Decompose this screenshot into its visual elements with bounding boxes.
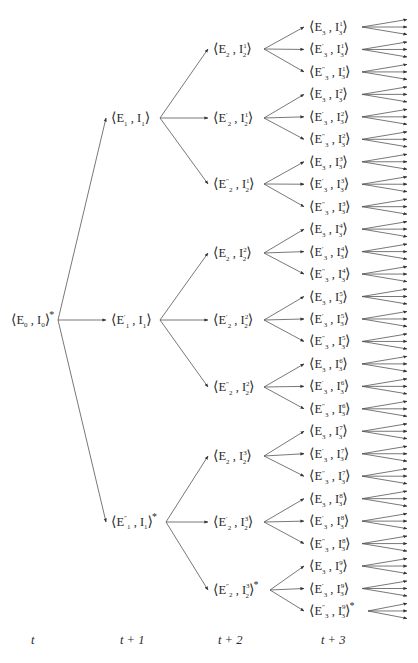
node-level3: ⟨E′3 , I53⟩: [308, 312, 350, 326]
edge-l3-to-leaf: [362, 311, 407, 319]
edge-l3-to-leaf: [362, 379, 407, 387]
node-level3: ⟨E″3 , I93⟩*: [308, 603, 356, 618]
edge-l3-to-leaf: [362, 252, 407, 260]
edge-l3-to-leaf: [362, 109, 407, 117]
edge-l1-to-l2: [160, 320, 208, 387]
edge-l3-to-leaf: [362, 514, 407, 522]
node-level3: ⟨E′3 , I23⟩: [308, 110, 350, 124]
node-level3: ⟨E″3 , I13⟩: [308, 65, 352, 79]
edge-l3-to-leaf: [362, 184, 407, 192]
edge-l2-to-l3: [264, 117, 304, 118]
edge-l3-to-leaf: [362, 42, 407, 50]
edge-l1-to-l2: [160, 253, 208, 320]
node-level3: ⟨E′3 , I63⟩: [308, 379, 350, 393]
node-level3: ⟨E3 , I43⟩: [308, 222, 349, 236]
edge-l2-to-l3: [264, 229, 304, 253]
edge-l3-to-leaf: [362, 199, 407, 207]
edge-l3-to-leaf: [362, 132, 407, 140]
node-level1: ⟨E1 , I1⟩: [110, 111, 151, 125]
edge-l3-to-leaf: [362, 117, 407, 125]
time-label-t-plus-2: t + 2: [218, 633, 242, 648]
edge-l3-to-leaf: [362, 72, 407, 80]
node-level3: ⟨E″3 , I33⟩: [308, 200, 352, 214]
edge-l3-to-leaf: [362, 356, 407, 364]
edge-l2-to-l3: [264, 499, 304, 522]
edge-l3-to-leaf: [362, 454, 407, 462]
node-level2: ⟨E′2 , I22⟩: [212, 313, 254, 327]
node-level3: ⟨E″3 , I73⟩: [308, 469, 352, 483]
edge-l3-to-leaf: [362, 469, 407, 477]
edge-l3-to-leaf: [362, 566, 407, 574]
node-level2: ⟨E2 , I22⟩: [212, 246, 253, 260]
node-level3: ⟨E″3 , I83⟩: [308, 537, 352, 551]
node-level2: ⟨E″2 , I32⟩*: [212, 583, 260, 598]
edge-l3-to-leaf: [362, 229, 407, 237]
node-level3: ⟨E3 , I13⟩: [308, 20, 349, 34]
edge-l2-to-l3: [264, 297, 304, 320]
node-level2: ⟨E2 , I12⟩: [212, 42, 253, 56]
node-level3: ⟨E′3 , I33⟩: [308, 177, 350, 191]
edge-l2-to-l3: [264, 118, 304, 139]
node-level2: ⟨E′2 , I12⟩: [212, 111, 254, 125]
edge-l3-to-leaf: [362, 589, 407, 597]
node-level3: ⟨E′3 , I73⟩: [308, 447, 350, 461]
node-level3: ⟨E′3 , I83⟩: [308, 514, 350, 528]
time-label-t-plus-1: t + 1: [120, 633, 144, 648]
edge-l2-to-l3: [264, 320, 304, 341]
edge-l2-to-l3: [264, 319, 304, 320]
node-level2: ⟨E2 , I32⟩: [212, 449, 253, 463]
edge-l2-to-l3: [264, 431, 304, 456]
edge-l2-to-l3: [264, 94, 304, 118]
node-level3: ⟨E″3 , I43⟩: [308, 267, 352, 281]
node-level1: ⟨E″1 , I1⟩*: [110, 515, 158, 530]
edge-l3-to-leaf: [362, 409, 407, 417]
edge-l2-to-l3: [264, 27, 304, 49]
edge-l3-to-leaf: [362, 364, 407, 372]
edge-l2-to-l3: [270, 589, 304, 591]
edge-l2-to-l3: [264, 386, 304, 387]
node-level3: ⟨E3 , I83⟩: [308, 492, 349, 506]
edge-l2-to-l3: [264, 522, 304, 544]
edge-l3-to-leaf: [368, 603, 407, 611]
edge-l2-to-l3: [264, 162, 304, 184]
node-level3: ⟨E3 , I63⟩: [308, 357, 349, 371]
edge-l1-to-l2: [160, 118, 208, 184]
time-label-t: t: [31, 633, 34, 648]
edge-l3-to-leaf: [362, 581, 407, 589]
node-level3: ⟨E3 , I93⟩: [308, 559, 349, 573]
node-level3: ⟨E′3 , I43⟩: [308, 245, 350, 259]
time-label-t-plus-3: t + 3: [321, 633, 345, 648]
node-level3: ⟨E3 , I73⟩: [308, 424, 349, 438]
edge-l3-to-leaf: [362, 341, 407, 349]
node-level1: ⟨E′1 , I1⟩: [110, 313, 153, 327]
edge-l2-to-l3: [264, 454, 304, 456]
edge-l3-to-leaf: [362, 521, 407, 529]
edge-l3-to-leaf: [362, 274, 407, 282]
edge-l3-to-leaf: [362, 289, 407, 297]
edge-l3-to-leaf: [362, 20, 407, 28]
edge-l3-to-leaf: [362, 162, 407, 170]
node-level3: ⟨E′3 , I13⟩: [308, 42, 350, 56]
edge-l3-to-leaf: [362, 267, 407, 275]
edge-l3-to-leaf: [362, 431, 407, 439]
edge-l3-to-leaf: [362, 27, 407, 35]
node-level3: ⟨E3 , I23⟩: [308, 87, 349, 101]
edge-l3-to-leaf: [362, 94, 407, 102]
edge-l3-to-leaf: [362, 386, 407, 394]
edge-l3-to-leaf: [362, 49, 407, 57]
edge-l3-to-leaf: [362, 177, 407, 185]
edge-l3-to-leaf: [362, 401, 407, 409]
node-level2: ⟨E″2 , I12⟩: [212, 177, 256, 191]
edge-l1-to-l2: [160, 49, 208, 118]
edge-l3-to-leaf: [362, 319, 407, 327]
edge-l2-to-l3: [264, 184, 304, 207]
state-tree-diagram: [0, 0, 418, 663]
edge-l3-to-leaf: [362, 559, 407, 567]
edge-l3-to-leaf: [362, 244, 407, 252]
edge-l2-to-l3: [264, 364, 304, 387]
edge-l3-to-leaf: [362, 87, 407, 95]
edge-l3-to-leaf: [362, 297, 407, 305]
edge-l3-to-leaf: [362, 64, 407, 72]
edge-root-to-l1: [58, 118, 106, 320]
edge-l3-to-leaf: [362, 536, 407, 544]
